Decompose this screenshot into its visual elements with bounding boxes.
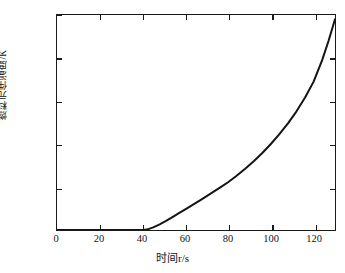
x-tick-label: 80 <box>208 233 248 244</box>
temperature-curve-svg <box>57 15 335 230</box>
chart-figure: 燃料元件温度/K 2 000 1 800 1 600 1 400 1 200 1… <box>0 0 345 273</box>
plot-area <box>56 14 336 231</box>
temperature-curve <box>57 19 335 230</box>
x-axis-title: 时间r/s <box>0 249 345 265</box>
x-tick-label: 0 <box>36 233 76 244</box>
x-tick-label: 60 <box>165 233 205 244</box>
x-tick-label: 40 <box>122 233 162 244</box>
x-tick-label: 20 <box>79 233 119 244</box>
y-axis-title: 燃料元件温度/K <box>0 50 12 120</box>
x-tick-label: 120 <box>294 233 334 244</box>
x-tick-label: 100 <box>251 233 291 244</box>
